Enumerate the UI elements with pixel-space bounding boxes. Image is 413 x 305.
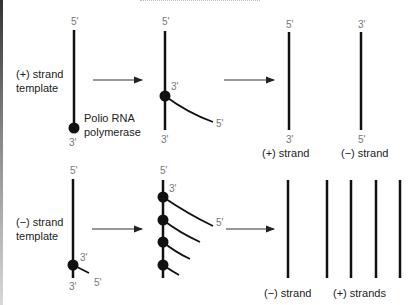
prime-3-label: 3' [171, 81, 179, 92]
top-step1-strand: 5' 3' Polio RNA polymerase [69, 16, 141, 148]
prime-5-label: 5' [94, 277, 102, 288]
minus-strand-label: (−) strand [341, 147, 388, 159]
prime-5-label: 5' [162, 16, 170, 27]
plus-strands-label: (+) strands [333, 287, 386, 299]
prime-3-label: 3' [69, 137, 77, 148]
polymerase-dot [69, 123, 80, 134]
prime-3-label: 3' [161, 134, 169, 145]
prime-3-label: 3' [80, 252, 88, 263]
plus-template-label-2: template [16, 82, 58, 94]
minus-template-label-2: template [16, 230, 58, 242]
prime-3-label: 3' [358, 19, 366, 30]
prime-5-label: 5' [216, 217, 224, 228]
replication-diagram: (+) strand template 5' 3' Polio RNA poly… [0, 0, 413, 305]
polymerase-label-1: Polio RNA [84, 112, 135, 124]
bottom-step2-strand: 5' 3' 5' [158, 165, 224, 278]
prime-5-label: 5' [358, 134, 366, 145]
top-row: (+) strand template 5' 3' Polio RNA poly… [16, 16, 388, 159]
plus-strand-label: (+) strand [262, 147, 309, 159]
bottom-row: (−) strand template 5' 3' 5' 3' 5' 3' 5' [16, 165, 400, 299]
prime-3-label: 3' [69, 281, 77, 292]
prime-5-label: 5' [216, 118, 224, 129]
top-result-minus: 3' 5' (−) strand [341, 19, 388, 159]
prime-5-label: 5' [286, 19, 294, 30]
polymerase-label-2: polymerase [84, 126, 141, 138]
prime-3-label: 3' [286, 134, 294, 145]
prime-5-label: 5' [70, 165, 78, 176]
minus-template-label-1: (−) strand [16, 216, 63, 228]
bottom-results: (−) strand (+) strands [264, 180, 400, 299]
prime-5-label: 5' [71, 16, 79, 27]
prime-3-label: 3' [169, 183, 177, 194]
top-result-plus: 5' 3' (+) strand [262, 19, 309, 159]
top-step2-strand: 5' 3' 5' 3' [160, 16, 224, 145]
nascent-strand [165, 96, 213, 122]
plus-template-label-1: (+) strand [16, 68, 63, 80]
minus-strand-label: (−) strand [264, 287, 311, 299]
prime-5-label: 5' [160, 165, 168, 176]
